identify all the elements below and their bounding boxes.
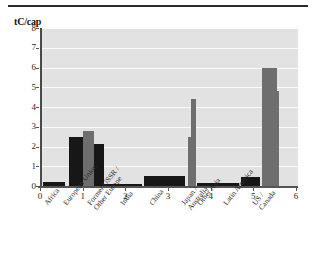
top-divider-rule [8,5,308,7]
category-label-line: China [147,187,165,207]
y-tick-mark [36,87,39,88]
y-axis-tick-labels: 012345678 [0,0,36,260]
x-tick-mark [83,188,84,191]
gridline-3 [42,127,298,128]
y-tick-label: 7 [2,43,36,52]
y-tick-label: 8 [2,24,36,33]
y-tick-mark [36,166,39,167]
y-tick-label: 6 [2,63,36,72]
bar [144,176,185,186]
x-tick-mark [40,188,41,191]
y-tick-label: 1 [2,162,36,171]
chart-figure: tC/cap 012345678 0123456 AfricaEuropean … [0,0,316,260]
y-tick-label: 4 [2,103,36,112]
y-tick-label: 2 [2,142,36,151]
y-tick-mark [36,48,39,49]
plot-area [40,28,298,186]
gridline-4 [42,107,298,108]
bar [191,99,195,186]
gridline-8 [42,28,298,29]
x-tick-mark [253,188,254,191]
y-tick-mark [36,127,39,128]
bar [262,68,277,187]
category-label-line: Africa [42,186,61,207]
category-label: China [148,188,165,207]
x-tick-label: 6 [294,192,299,201]
gridline-6 [42,68,298,69]
y-tick-label: 0 [2,182,36,191]
x-tick-label: 1 [80,192,85,201]
plot-gridlines-and-bars [42,28,298,186]
x-tick-mark [168,188,169,191]
x-tick-label: 3 [166,192,171,201]
y-tick-label: 5 [2,83,36,92]
y-tick-mark [36,107,39,108]
gridline-7 [42,48,298,49]
y-tick-mark [36,68,39,69]
category-label: Africa [43,187,61,207]
y-tick-label: 3 [2,122,36,131]
category-label: India [119,190,135,207]
y-tick-mark [36,147,39,148]
x-tick-mark [296,188,297,191]
category-label: US /Canada [251,184,277,212]
category-label-line: India [118,189,135,207]
y-tick-mark [36,28,39,29]
gridline-5 [42,87,298,88]
bar [277,91,280,186]
x-tick-label: 0 [38,192,43,201]
